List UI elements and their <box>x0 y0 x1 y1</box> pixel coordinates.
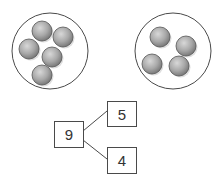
bond-line-top <box>83 111 107 131</box>
counter-ball <box>32 65 52 85</box>
part-value-bottom: 4 <box>118 152 126 169</box>
counter-ball <box>150 27 170 47</box>
counter-ball <box>176 36 196 56</box>
whole-box: 9 <box>54 121 84 148</box>
counter-ball <box>169 56 189 76</box>
whole-value: 9 <box>65 126 73 143</box>
counter-ball <box>42 47 62 67</box>
part-value-top: 5 <box>118 106 126 123</box>
right-group-circle <box>135 13 211 89</box>
part-box-top: 5 <box>107 101 137 127</box>
counter-ball <box>19 39 39 59</box>
counter-ball <box>32 21 52 41</box>
counter-ball <box>53 27 73 47</box>
bond-line-bottom <box>83 140 107 159</box>
part-box-bottom: 4 <box>107 147 137 174</box>
counter-ball <box>142 54 162 74</box>
